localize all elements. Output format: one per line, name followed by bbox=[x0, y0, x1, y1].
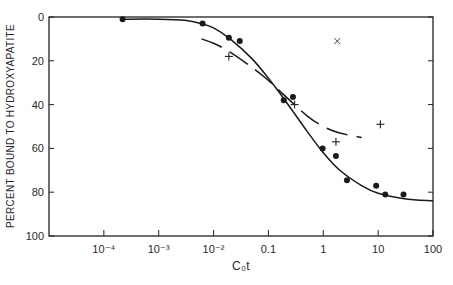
x-tick-label: 0.1 bbox=[261, 243, 276, 255]
x-tick-label: 10⁻³ bbox=[148, 243, 170, 255]
x-tick-label: 10⁻⁴ bbox=[92, 243, 115, 255]
y-axis-ticks: 020406080100 bbox=[26, 11, 433, 242]
x-tick-label: 100 bbox=[424, 243, 442, 255]
y-tick-label: 20 bbox=[32, 55, 44, 67]
dashed-curve bbox=[201, 39, 361, 138]
filled-circle-point bbox=[373, 183, 379, 189]
plus-point bbox=[376, 120, 384, 128]
plus-point bbox=[332, 138, 340, 146]
y-tick-label: 60 bbox=[32, 142, 44, 154]
filled-circle-point bbox=[200, 21, 206, 27]
y-tick-label: 0 bbox=[38, 11, 44, 23]
filled-circle-point bbox=[237, 38, 243, 44]
x-tick-label: 10 bbox=[372, 243, 384, 255]
filled-circle-point bbox=[344, 177, 350, 183]
chart: 10⁻⁴10⁻³10⁻²0.1110100 020406080100 C₀t P… bbox=[0, 0, 453, 285]
filled-circle-point bbox=[290, 94, 296, 100]
y-axis-label: PERCENT BOUND TO HYDROXYAPATITE bbox=[5, 24, 16, 228]
plot-frame bbox=[49, 17, 433, 236]
filled-circle-point bbox=[226, 35, 232, 41]
data-markers bbox=[120, 16, 407, 197]
filled-circle-point bbox=[320, 145, 326, 151]
x-axis-label: C₀t bbox=[232, 259, 250, 273]
filled-circle-point bbox=[382, 191, 388, 197]
y-tick-label: 80 bbox=[32, 186, 44, 198]
solid-curve bbox=[123, 19, 433, 201]
fit-curves bbox=[123, 19, 433, 201]
x-axis-ticks: 10⁻⁴10⁻³10⁻²0.1110100 bbox=[92, 230, 442, 255]
filled-circle-point bbox=[281, 97, 287, 103]
y-tick-label: 40 bbox=[32, 99, 44, 111]
filled-circle-point bbox=[333, 153, 339, 159]
filled-circle-point bbox=[120, 16, 126, 22]
x-tick-label: 10⁻² bbox=[203, 243, 225, 255]
filled-circle-point bbox=[401, 191, 407, 197]
y-tick-label: 100 bbox=[26, 230, 44, 242]
x-mark-point bbox=[334, 38, 340, 44]
x-tick-label: 1 bbox=[320, 243, 326, 255]
